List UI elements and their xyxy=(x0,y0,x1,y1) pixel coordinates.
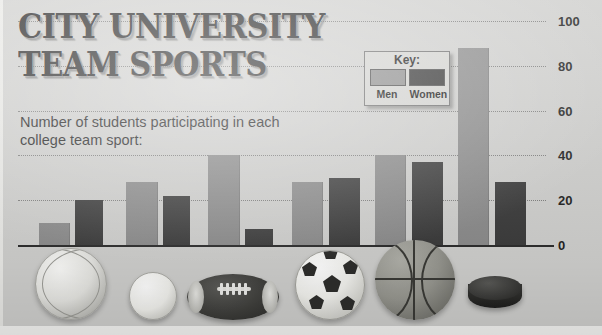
chart-subtitle: Number of students participating in each… xyxy=(20,113,310,149)
bar-soccer-women xyxy=(329,178,360,245)
bar-ice-hockey-women xyxy=(495,182,526,245)
legend-title: Key: xyxy=(365,54,449,67)
baseball-icon xyxy=(129,272,177,320)
volleyball-icon xyxy=(35,248,107,320)
bar-baseball-softball-men xyxy=(126,182,158,245)
bar-ice-hockey-men xyxy=(458,48,489,245)
legend-label-women: Women xyxy=(410,88,445,100)
basketball-icon xyxy=(375,240,455,320)
soccer-ball-icon xyxy=(295,250,365,320)
title-line-2: Team Sports xyxy=(18,46,325,84)
y-tick-label-40: 40 xyxy=(558,148,572,163)
bar-football-women xyxy=(245,229,273,245)
page-title: City University Team Sports xyxy=(18,8,352,84)
y-tick-label-100: 100 xyxy=(558,14,580,29)
chart-poster: 020406080100 City University Team Sports… xyxy=(0,0,602,335)
bar-basketball-women xyxy=(412,162,443,245)
legend-label-men: Men xyxy=(370,88,405,100)
y-tick-label-20: 20 xyxy=(558,193,572,208)
hockey-puck-icon xyxy=(468,276,522,312)
scan-left-edge xyxy=(0,0,3,335)
bar-basketball-men xyxy=(375,155,406,245)
legend-swatch-men xyxy=(370,69,406,86)
scan-bottom-edge xyxy=(0,326,602,335)
y-tick-label-60: 60 xyxy=(558,103,572,118)
football-icon xyxy=(187,274,279,320)
bar-soccer-men xyxy=(292,182,323,245)
title-line-1: City University xyxy=(18,8,325,46)
legend-swatch-women xyxy=(409,69,445,86)
bar-football-men xyxy=(208,155,240,245)
bar-volleyball-women xyxy=(75,200,103,245)
sport-icon-row xyxy=(0,248,602,326)
legend-swatches xyxy=(365,69,449,86)
x-axis-line xyxy=(18,245,554,247)
bar-volleyball-men xyxy=(39,223,70,245)
bar-baseball-softball-women xyxy=(163,196,190,245)
legend-labels: Men Women xyxy=(365,88,449,100)
y-tick-label-80: 80 xyxy=(558,58,572,73)
legend-key-box: Key: Men Women xyxy=(364,51,450,106)
